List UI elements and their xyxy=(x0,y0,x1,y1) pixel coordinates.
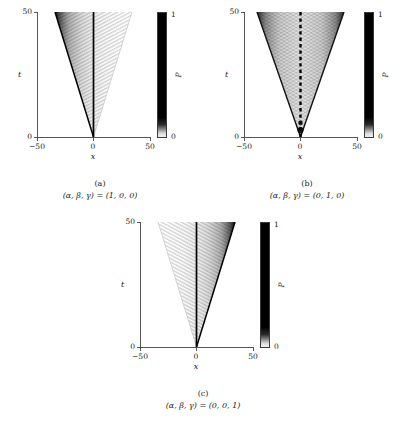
y-ticklabel-0-b: 0 xyxy=(225,133,239,141)
y-tick-top-b xyxy=(241,12,244,13)
panel-c: 50 0 −50 0 50 x t 1 0 P (c) (α, β, γ) = … xyxy=(105,210,301,425)
axes-a: 50 0 −50 0 50 x t 1 0 P xyxy=(2,0,198,175)
colorbar-ticklabel-min-a: 0 xyxy=(171,133,176,141)
y-ticklabel-50-a: 50 xyxy=(18,8,32,16)
panel-params-c: (α, β, γ) = (0, 0, 1) xyxy=(105,400,301,412)
panel-sublabel-c: (c) xyxy=(105,388,301,400)
x-axis-label-b: x xyxy=(298,152,303,161)
heatmap-a xyxy=(37,12,150,137)
x-ticklabel-max-c: 50 xyxy=(248,353,258,361)
x-tick-max-a xyxy=(150,138,151,141)
y-axis-label-c: t xyxy=(121,280,124,289)
panel-sublabel-a: (a) xyxy=(2,178,198,190)
heatmap-b xyxy=(244,12,357,137)
y-axis-spine-b xyxy=(244,12,245,138)
panel-params-a: (α, β, γ) = (1, 0, 0) xyxy=(2,190,198,202)
colorbar-ticklabel-min-b: 0 xyxy=(378,133,383,141)
x-ticklabel-max-b: 50 xyxy=(352,143,362,151)
colorbar-label-b: P xyxy=(381,72,390,77)
x-tick-zero-b xyxy=(300,138,301,141)
y-tick-top-a xyxy=(34,12,37,13)
figure-root: 50 0 −50 0 50 x t 1 0 P (a) (α, β, γ) = … xyxy=(0,0,405,428)
colorbar-label-c: P xyxy=(277,282,286,287)
caption-c: (c) (α, β, γ) = (0, 0, 1) xyxy=(105,388,301,413)
colorbar-a xyxy=(157,12,167,138)
x-tick-min-b xyxy=(244,138,245,141)
caption-a: (a) (α, β, γ) = (1, 0, 0) xyxy=(2,178,198,203)
panel-a: 50 0 −50 0 50 x t 1 0 P (a) (α, β, γ) = … xyxy=(2,0,198,215)
plot-area-b xyxy=(244,12,357,137)
x-ticklabel-min-a: −50 xyxy=(29,143,45,151)
x-ticklabel-zero-a: 0 xyxy=(91,143,96,151)
x-tick-max-b xyxy=(357,138,358,141)
x-axis-spine-b xyxy=(244,137,358,138)
y-ticklabel-50-b: 50 xyxy=(225,8,239,16)
x-axis-spine-a xyxy=(37,137,151,138)
x-axis-spine-c xyxy=(140,347,254,348)
colorbar-ticklabel-max-a: 1 xyxy=(171,11,176,19)
y-axis-spine-a xyxy=(37,12,38,138)
plot-area-a xyxy=(37,12,150,137)
panel-b: 50 0 −50 0 50 x t 1 0 P (b) (α, β, γ) = … xyxy=(209,0,405,215)
plot-area-c xyxy=(140,222,253,347)
x-ticklabel-zero-c: 0 xyxy=(194,353,199,361)
heatmap-c xyxy=(140,222,253,347)
x-ticklabel-zero-b: 0 xyxy=(298,143,303,151)
y-tick-top-c xyxy=(137,222,140,223)
y-axis-label-a: t xyxy=(18,70,21,79)
colorbar-label-a: P xyxy=(174,72,183,77)
x-tick-zero-c xyxy=(196,348,197,351)
x-ticklabel-min-c: −50 xyxy=(132,353,148,361)
x-tick-zero-a xyxy=(93,138,94,141)
colorbar-c xyxy=(260,222,270,348)
y-ticklabel-50-c: 50 xyxy=(121,218,135,226)
y-ticklabel-0-a: 0 xyxy=(18,133,32,141)
x-tick-min-c xyxy=(140,348,141,351)
y-axis-spine-c xyxy=(140,222,141,348)
axes-b: 50 0 −50 0 50 x t 1 0 P xyxy=(209,0,405,175)
x-axis-label-a: x xyxy=(91,152,96,161)
panel-params-b: (α, β, γ) = (0, 1, 0) xyxy=(209,190,405,202)
y-ticklabel-0-c: 0 xyxy=(121,343,135,351)
panel-sublabel-b: (b) xyxy=(209,178,405,190)
x-axis-label-c: x xyxy=(194,362,199,371)
colorbar-ticklabel-min-c: 0 xyxy=(274,343,279,351)
caption-b: (b) (α, β, γ) = (0, 1, 0) xyxy=(209,178,405,203)
x-tick-min-a xyxy=(37,138,38,141)
x-ticklabel-min-b: −50 xyxy=(236,143,252,151)
axes-c: 50 0 −50 0 50 x t 1 0 P xyxy=(105,210,301,385)
x-ticklabel-max-a: 50 xyxy=(145,143,155,151)
x-tick-max-c xyxy=(253,348,254,351)
colorbar-ticklabel-max-c: 1 xyxy=(274,221,279,229)
y-axis-label-b: t xyxy=(225,70,228,79)
colorbar-ticklabel-max-b: 1 xyxy=(378,11,383,19)
colorbar-b xyxy=(364,12,374,138)
